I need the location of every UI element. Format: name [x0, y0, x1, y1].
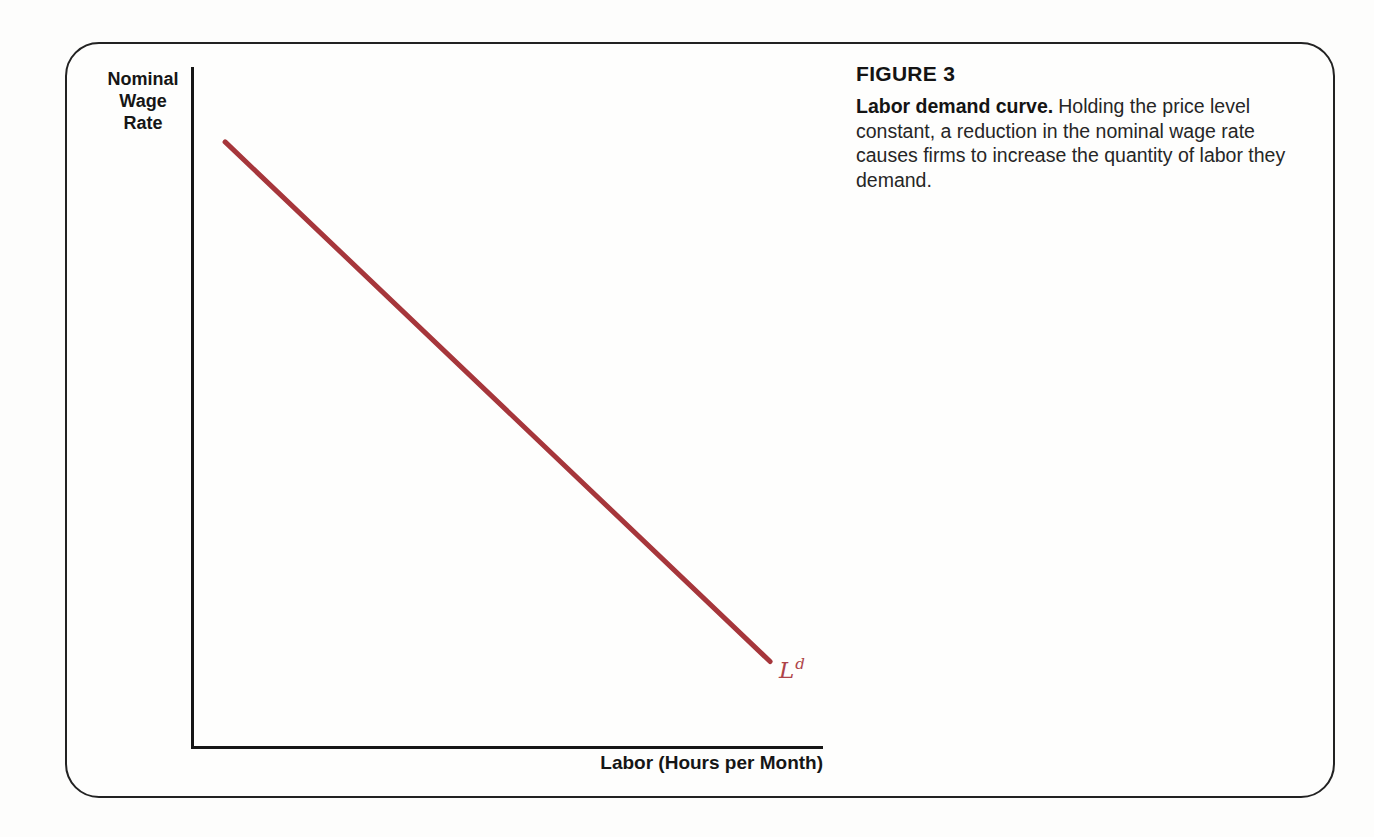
x-axis-label: Labor (Hours per Month)	[193, 752, 823, 774]
curve-label-superscript: d	[795, 655, 805, 673]
scanned-page: Nominal Wage Rate Ld Labor (Hours per Mo…	[0, 0, 1374, 837]
curve-label: Ld	[779, 655, 805, 683]
y-axis-label-line-2: Wage	[88, 90, 198, 112]
figure-caption-block: FIGURE 3 Labor demand curve.Holding the …	[856, 62, 1296, 192]
y-axis-label-line-1: Nominal	[88, 68, 198, 90]
demand-curve-svg	[193, 67, 823, 748]
figure-caption-lead: Labor demand curve.	[856, 95, 1053, 117]
y-axis-label-line-3: Rate	[88, 112, 198, 134]
demand-curve-line	[225, 142, 770, 662]
figure-heading: FIGURE 3	[856, 62, 1296, 86]
curve-label-base: L	[779, 657, 794, 683]
figure-caption-text: Labor demand curve.Holding the price lev…	[856, 94, 1296, 192]
y-axis-label: Nominal Wage Rate	[88, 68, 198, 134]
